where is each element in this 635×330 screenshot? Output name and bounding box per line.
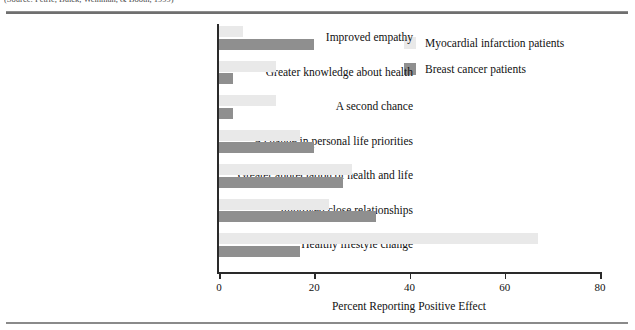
category-group: Healthy lifestyle change <box>0 233 635 267</box>
bar-breast[interactable] <box>219 73 233 84</box>
bar-breast[interactable] <box>219 142 314 153</box>
bar-breast[interactable] <box>219 177 343 188</box>
x-tick-60 <box>505 272 507 279</box>
bar-breast[interactable] <box>219 108 233 119</box>
x-tick-80 <box>600 272 602 279</box>
x-tick-0 <box>219 272 221 279</box>
figure-caption-sliver: (Source: Petrie, Buick, Weinman, & Booth… <box>4 0 334 5</box>
bar-myocardial[interactable] <box>219 26 243 37</box>
category-group: Greater appreciation of health and life <box>0 164 635 198</box>
bar-myocardial[interactable] <box>219 233 538 244</box>
bar-breast[interactable] <box>219 246 300 257</box>
category-group: A second chance <box>0 95 635 129</box>
x-tick-20 <box>314 272 316 279</box>
category-group: Greater knowledge about health <box>0 61 635 95</box>
category-group: Improved close relationships <box>0 199 635 233</box>
x-tick-40 <box>410 272 412 279</box>
bar-myocardial[interactable] <box>219 61 276 72</box>
figure-container: (Source: Petrie, Buick, Weinman, & Booth… <box>0 0 635 330</box>
category-group: A change in personal life priorities <box>0 130 635 164</box>
bottom-rule-divider <box>6 322 628 324</box>
x-tick-label-0: 0 <box>216 281 222 294</box>
category-group: Improved empathy <box>0 26 635 60</box>
x-tick-label-40: 40 <box>404 281 415 294</box>
bar-breast[interactable] <box>219 211 376 222</box>
bar-myocardial[interactable] <box>219 199 329 210</box>
bar-myocardial[interactable] <box>219 164 352 175</box>
bar-myocardial[interactable] <box>219 95 276 106</box>
bar-myocardial[interactable] <box>219 130 300 141</box>
x-tick-label-60: 60 <box>499 281 510 294</box>
top-rule-divider <box>6 11 628 14</box>
x-tick-label-20: 20 <box>309 281 320 294</box>
x-tick-label-80: 80 <box>595 281 606 294</box>
bar-breast[interactable] <box>219 39 314 50</box>
x-axis-title: Percent Reporting Positive Effect <box>218 300 600 312</box>
